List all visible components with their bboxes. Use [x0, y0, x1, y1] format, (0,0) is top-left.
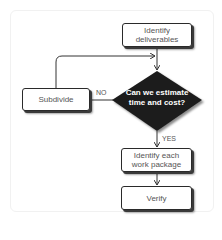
node-label: deliverables: [136, 35, 179, 44]
edge-label-no: NO: [96, 89, 107, 96]
node-verify: Verify: [121, 186, 192, 210]
decision-line-2: time and cost?: [129, 98, 185, 107]
node-label: Subdivide: [38, 95, 73, 104]
node-subdivide: Subdivide: [22, 88, 90, 111]
node-identify-work-package: Identify eachwork package: [121, 148, 192, 172]
edge-label-yes: YES: [162, 135, 176, 142]
decision-line-1: Can we estimate: [126, 88, 189, 97]
node-label: Verify: [146, 194, 166, 203]
node-label: Identify each: [134, 151, 179, 160]
node-label: Identify: [144, 26, 170, 35]
node-identify-deliverables: Identifydeliverables: [122, 23, 192, 47]
decision-label: Can we estimate time and cost?: [112, 88, 202, 108]
node-label: work package: [132, 160, 181, 169]
